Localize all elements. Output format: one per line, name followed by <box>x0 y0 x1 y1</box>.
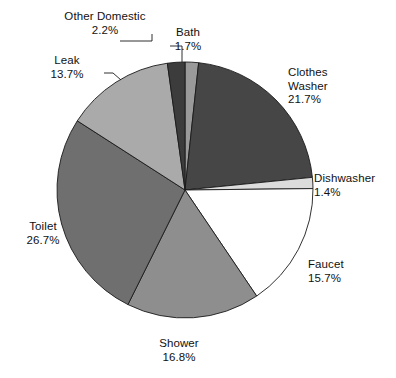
slice-label-clothes-washer-name-line1: Clothes <box>288 66 388 80</box>
slice-label-toilet: Toilet 26.7% <box>8 220 78 247</box>
slice-label-dishwasher-name: Dishwasher <box>314 172 396 186</box>
slice-label-faucet-name: Faucet <box>308 258 388 272</box>
leader-line-leak <box>104 73 121 80</box>
slice-label-dishwasher-pct: 1.4% <box>314 186 396 200</box>
slice-label-bath-pct: 1.7% <box>160 40 216 54</box>
slice-label-shower-name: Shower <box>139 337 219 351</box>
slice-label-leak-pct: 13.7% <box>34 68 100 82</box>
slice-label-other-domestic: Other Domestic 2.2% <box>44 10 166 37</box>
slice-label-shower: Shower 16.8% <box>139 337 219 364</box>
slice-label-shower-pct: 16.8% <box>139 351 219 365</box>
slice-label-bath-name: Bath <box>160 26 216 40</box>
slice-label-leak-name: Leak <box>34 54 100 68</box>
pie-chart: Other Domestic 2.2% Bath 1.7% Leak 13.7%… <box>0 0 396 378</box>
slice-label-toilet-name: Toilet <box>8 220 78 234</box>
slice-label-clothes-washer-pct: 21.7% <box>288 93 388 107</box>
slice-label-faucet-pct: 15.7% <box>308 272 388 286</box>
slice-label-faucet: Faucet 15.7% <box>308 258 388 285</box>
slice-label-clothes-washer-name-line2: Washer <box>288 80 388 94</box>
slice-label-other-domestic-pct: 2.2% <box>44 24 166 38</box>
slice-label-leak: Leak 13.7% <box>34 54 100 81</box>
slice-label-bath: Bath 1.7% <box>160 26 216 53</box>
pie-slice-group <box>57 62 313 318</box>
slice-label-dishwasher: Dishwasher 1.4% <box>314 172 396 199</box>
slice-label-other-domestic-name: Other Domestic <box>44 10 166 24</box>
slice-label-clothes-washer: Clothes Washer 21.7% <box>288 66 388 107</box>
slice-label-toilet-pct: 26.7% <box>8 234 78 248</box>
